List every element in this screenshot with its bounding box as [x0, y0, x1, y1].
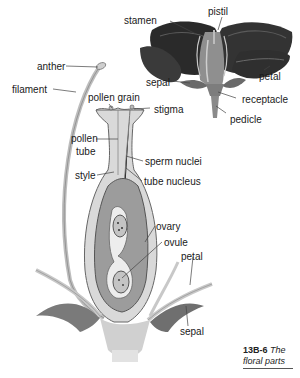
label-petal-whole: petal	[259, 71, 281, 82]
label-sepal-section: sepal	[180, 326, 204, 337]
caption-rule	[243, 368, 293, 369]
floral-parts-diagram	[0, 0, 300, 378]
label-pedicle: pedicle	[230, 114, 262, 125]
label-stamen: stamen	[124, 15, 157, 26]
label-pollen-grain: pollen grain	[88, 92, 140, 103]
label-anther: anther	[37, 61, 65, 72]
label-ovary: ovary	[156, 221, 180, 232]
label-pollen-tube-line2: tube	[76, 146, 95, 157]
label-pistil: pistil	[208, 6, 228, 17]
label-sepal-whole: sepal	[146, 77, 170, 88]
cross-section-illustration	[36, 61, 212, 362]
label-style: style	[75, 170, 96, 181]
label-receptacle: receptacle	[242, 94, 288, 105]
label-sperm-nuclei: sperm nuclei	[145, 156, 202, 167]
label-tube-nucleus: tube nucleus	[144, 176, 201, 187]
figure-number: 13B-6	[243, 345, 268, 355]
label-ovule: ovule	[164, 237, 188, 248]
figure-caption: 13B-6 The floral parts	[243, 345, 299, 367]
label-filament: filament	[12, 84, 47, 95]
label-pollen-tube-line1: pollen	[71, 133, 98, 144]
label-petal-section: petal	[181, 251, 203, 262]
label-stigma: stigma	[154, 104, 183, 115]
